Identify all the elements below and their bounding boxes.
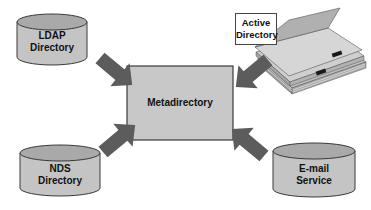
metadirectory-label: Metadirectory <box>127 97 233 109</box>
email-line1: E-mail <box>273 163 355 175</box>
metadirectory-diagram: LDAP Directory Active Directory Metadire… <box>0 0 371 210</box>
active-directory-line2: Directory <box>236 29 276 41</box>
ldap-line1: LDAP <box>17 30 87 42</box>
nds-directory-label: NDS Directory <box>20 163 100 187</box>
nds-line1: NDS <box>20 163 100 175</box>
ldap-line2: Directory <box>17 42 87 54</box>
nds-line2: Directory <box>20 175 100 187</box>
active-directory-label: Active Directory <box>235 13 277 45</box>
active-directory-line1: Active <box>236 17 276 29</box>
email-service-label: E-mail Service <box>273 163 355 187</box>
email-line2: Service <box>273 175 355 187</box>
ldap-directory-label: LDAP Directory <box>17 30 87 54</box>
